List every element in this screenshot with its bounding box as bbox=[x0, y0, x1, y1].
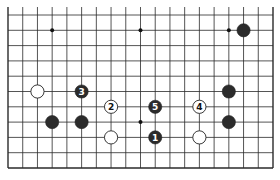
move-number: 2 bbox=[108, 102, 114, 112]
move-number: 3 bbox=[78, 87, 84, 97]
star-point bbox=[139, 28, 143, 32]
white-stone bbox=[31, 85, 44, 98]
white-stone: 2 bbox=[104, 100, 117, 113]
black-stone bbox=[46, 116, 59, 129]
white-stone bbox=[193, 131, 206, 144]
stone-body bbox=[75, 116, 88, 129]
stone-body bbox=[193, 131, 206, 144]
black-stone bbox=[75, 116, 88, 129]
move-number: 5 bbox=[152, 102, 158, 112]
black-stone: 1 bbox=[149, 131, 162, 144]
star-point bbox=[139, 120, 143, 124]
move-number: 4 bbox=[196, 102, 202, 112]
white-stone bbox=[104, 131, 117, 144]
stone-body bbox=[222, 85, 235, 98]
move-number: 1 bbox=[152, 133, 158, 143]
white-stone: 4 bbox=[193, 100, 206, 113]
stone-body bbox=[46, 116, 59, 129]
star-point bbox=[50, 28, 54, 32]
go-board: 32541 bbox=[0, 0, 280, 180]
stone-body bbox=[222, 116, 235, 129]
stone-body bbox=[237, 24, 250, 37]
black-stone bbox=[237, 24, 250, 37]
black-stone bbox=[222, 116, 235, 129]
black-stone: 3 bbox=[75, 85, 88, 98]
black-stone: 5 bbox=[149, 100, 162, 113]
stone-body bbox=[104, 131, 117, 144]
star-point bbox=[227, 28, 231, 32]
stone-body bbox=[31, 85, 44, 98]
black-stone bbox=[222, 85, 235, 98]
